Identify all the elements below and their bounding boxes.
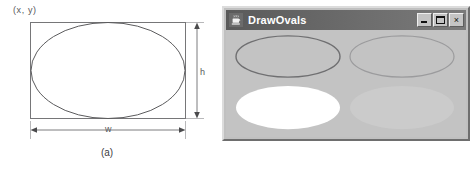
window-title-text: DrawOvals xyxy=(248,14,417,26)
oval-bottom-right xyxy=(350,86,454,129)
caption-a: (a) xyxy=(87,147,127,158)
height-label: h xyxy=(200,67,205,77)
inscribed-ellipse xyxy=(31,23,185,119)
java-coffee-cup-icon xyxy=(229,13,243,27)
window-controls: × xyxy=(417,13,464,27)
figure-panel-a: (x, y) h w (a) xyxy=(0,0,215,169)
figure-panel-b: DrawOvals × (b xyxy=(215,0,475,169)
ovals-canvas-svg xyxy=(226,30,466,137)
minimize-glyph xyxy=(421,21,427,23)
origin-coordinate-label: (x, y) xyxy=(13,5,37,15)
maximize-glyph xyxy=(436,16,445,24)
minimize-button[interactable] xyxy=(417,13,432,27)
maximize-button[interactable] xyxy=(433,13,448,27)
close-button[interactable]: × xyxy=(449,13,464,27)
window-title-bar[interactable]: DrawOvals × xyxy=(226,10,466,30)
drawovals-application-window: DrawOvals × xyxy=(222,6,470,141)
width-label: w xyxy=(105,124,112,134)
close-icon: × xyxy=(450,14,463,26)
drawing-canvas xyxy=(226,30,466,137)
oval-bottom-left xyxy=(236,86,340,129)
